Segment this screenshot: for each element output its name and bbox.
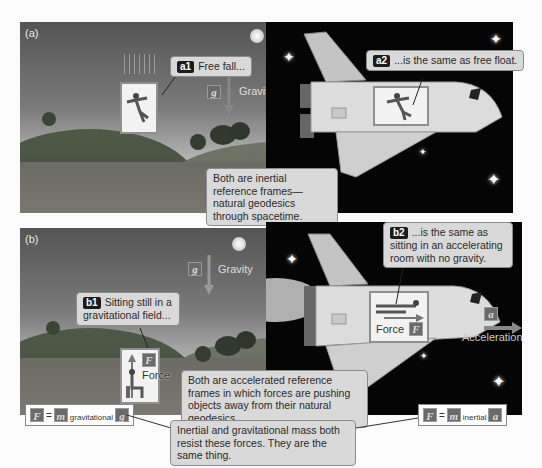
callout-leader-line (411, 77, 441, 107)
falling-person-icon (122, 84, 156, 132)
acceleration-label: Acceleration (462, 331, 522, 343)
force-label: Force (142, 369, 170, 381)
step-tag: b2 (390, 227, 408, 239)
equation-inertial: F = m inertial a (418, 404, 507, 426)
callout-a2: a2...is the same as free float. (366, 50, 524, 71)
mass-symbol: m (54, 408, 68, 422)
callout-b2: b2...is the same as sitting in an accele… (383, 222, 513, 268)
callout-a1-text: Free fall... (198, 60, 245, 72)
tree-icon (190, 134, 206, 150)
acceleration-symbol: a (484, 307, 498, 321)
equation-gravitational: F = m gravitational g (25, 404, 134, 426)
mass-subscript: gravitational (70, 413, 113, 422)
tree-icon (42, 112, 56, 126)
callout-leader-line (138, 328, 158, 350)
callout-a2-text: ...is the same as free float. (394, 54, 517, 66)
tree-icon (195, 346, 211, 362)
tree-icon (230, 122, 250, 140)
tree-icon (236, 331, 256, 349)
force-symbol: F (423, 408, 437, 422)
gravity-arrow-icon (224, 75, 234, 115)
force-symbol: F (142, 353, 156, 367)
panel-b-label: (b) (25, 233, 38, 245)
gravity-arrow-icon (204, 255, 214, 295)
gravity-label: Gravity (218, 263, 253, 275)
tree-icon (46, 321, 60, 335)
gravity-label: Gravity (239, 85, 266, 97)
step-tag: a2 (373, 55, 390, 67)
equals-sign: = (439, 410, 445, 421)
force-label: Force (376, 323, 404, 335)
acceleration-symbol: a (488, 408, 502, 422)
callout-b1: b1Sitting still in a gravitational field… (76, 292, 180, 326)
mass-subscript: inertial (463, 413, 487, 422)
step-tag: a1 (177, 61, 194, 73)
panel-a-label: (a) (25, 27, 38, 39)
summary-inertial-frames: Both are inertial reference frames—natur… (206, 168, 338, 226)
force-symbol: F (30, 408, 44, 422)
falling-room (120, 82, 158, 134)
conclusion-callout: Inertial and gravitational mass both res… (170, 420, 356, 466)
force-symbol: F (409, 322, 423, 336)
gravity-symbol: g (207, 85, 221, 99)
gravity-symbol: g (115, 408, 129, 422)
sun-icon (232, 237, 246, 251)
callout-a1: a1Free fall... (170, 56, 252, 77)
gravity-symbol: g (188, 262, 202, 276)
equals-sign: = (46, 410, 52, 421)
motion-streaks (120, 54, 156, 74)
mass-symbol: m (447, 408, 461, 422)
step-tag: b1 (83, 297, 101, 309)
sun-icon (250, 29, 264, 43)
